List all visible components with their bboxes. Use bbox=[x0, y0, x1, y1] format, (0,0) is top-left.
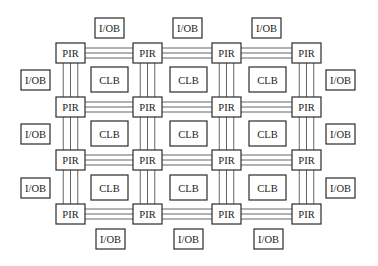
iob-block-right: I/OB bbox=[326, 70, 355, 90]
clb-block: CLB bbox=[249, 67, 286, 92]
iob-block-bottom-label: I/OB bbox=[178, 234, 199, 245]
pir-block-label: PIR bbox=[139, 102, 155, 113]
iob-block-bottom: I/OB bbox=[174, 229, 203, 249]
pir-block: PIR bbox=[212, 97, 241, 117]
clb-block-label: CLB bbox=[99, 183, 119, 194]
pir-block: PIR bbox=[133, 150, 162, 170]
pir-block-label: PIR bbox=[218, 209, 234, 220]
pir-block: PIR bbox=[292, 150, 321, 170]
iob-block-right-label: I/OB bbox=[330, 75, 351, 86]
pir-block-label: PIR bbox=[62, 48, 78, 59]
clb-block-label: CLB bbox=[178, 75, 198, 86]
iob-block-top-label: I/OB bbox=[256, 23, 277, 34]
pir-block: PIR bbox=[56, 97, 85, 117]
clb-block: CLB bbox=[91, 175, 128, 200]
clb-block: CLB bbox=[170, 121, 207, 146]
pir-block-label: PIR bbox=[139, 155, 155, 166]
pir-block-label: PIR bbox=[62, 102, 78, 113]
pir-block: PIR bbox=[56, 204, 85, 224]
iob-block-top-label: I/OB bbox=[177, 23, 198, 34]
pir-block: PIR bbox=[292, 97, 321, 117]
pir-block: PIR bbox=[292, 204, 321, 224]
iob-block-left: I/OB bbox=[21, 178, 50, 198]
pir-block-label: PIR bbox=[218, 155, 234, 166]
pir-block: PIR bbox=[212, 204, 241, 224]
pir-block-label: PIR bbox=[62, 155, 78, 166]
pir-block-label: PIR bbox=[218, 48, 234, 59]
pir-block-label: PIR bbox=[298, 155, 314, 166]
pir-block-label: PIR bbox=[298, 48, 314, 59]
iob-block-left-label: I/OB bbox=[25, 129, 46, 140]
clb-block-label: CLB bbox=[99, 129, 119, 140]
iob-block-top: I/OB bbox=[95, 18, 124, 38]
clb-block-label: CLB bbox=[178, 129, 198, 140]
pir-block: PIR bbox=[56, 43, 85, 63]
iob-block-right-label: I/OB bbox=[330, 129, 351, 140]
pir-block: PIR bbox=[133, 43, 162, 63]
pir-block: PIR bbox=[133, 97, 162, 117]
pir-block-label: PIR bbox=[298, 209, 314, 220]
clb-block: CLB bbox=[249, 175, 286, 200]
clb-block: CLB bbox=[91, 67, 128, 92]
pir-block: PIR bbox=[133, 204, 162, 224]
iob-block-top: I/OB bbox=[173, 18, 202, 38]
clb-block: CLB bbox=[170, 67, 207, 92]
clb-block-label: CLB bbox=[257, 129, 277, 140]
clb-block: CLB bbox=[91, 121, 128, 146]
iob-block-right-label: I/OB bbox=[330, 183, 351, 194]
clb-block-label: CLB bbox=[178, 183, 198, 194]
pir-block: PIR bbox=[212, 150, 241, 170]
fpga-architecture-diagram: PIRPIRPIRPIRPIRPIRPIRPIRPIRPIRPIRPIRPIRP… bbox=[0, 0, 378, 266]
iob-block-left: I/OB bbox=[21, 70, 50, 90]
iob-block-top: I/OB bbox=[252, 18, 281, 38]
iob-block-left-label: I/OB bbox=[25, 183, 46, 194]
pir-block-label: PIR bbox=[62, 209, 78, 220]
iob-block-right: I/OB bbox=[326, 178, 355, 198]
iob-block-left: I/OB bbox=[21, 124, 50, 144]
iob-block-bottom: I/OB bbox=[96, 229, 125, 249]
iob-block-bottom: I/OB bbox=[254, 229, 283, 249]
iob-block-top-label: I/OB bbox=[99, 23, 120, 34]
clb-block: CLB bbox=[249, 121, 286, 146]
clb-block-label: CLB bbox=[257, 183, 277, 194]
configurable-logic-blocks: CLBCLBCLBCLBCLBCLBCLBCLBCLB bbox=[91, 67, 286, 200]
pir-block-label: PIR bbox=[218, 102, 234, 113]
clb-block: CLB bbox=[170, 175, 207, 200]
pir-block-label: PIR bbox=[139, 48, 155, 59]
pir-block: PIR bbox=[292, 43, 321, 63]
pir-block: PIR bbox=[212, 43, 241, 63]
pir-block: PIR bbox=[56, 150, 85, 170]
iob-block-right: I/OB bbox=[326, 124, 355, 144]
iob-block-left-label: I/OB bbox=[25, 75, 46, 86]
iob-block-bottom-label: I/OB bbox=[100, 234, 121, 245]
pir-block-label: PIR bbox=[139, 209, 155, 220]
clb-block-label: CLB bbox=[257, 75, 277, 86]
clb-block-label: CLB bbox=[99, 75, 119, 86]
pir-block-label: PIR bbox=[298, 102, 314, 113]
iob-block-bottom-label: I/OB bbox=[258, 234, 279, 245]
